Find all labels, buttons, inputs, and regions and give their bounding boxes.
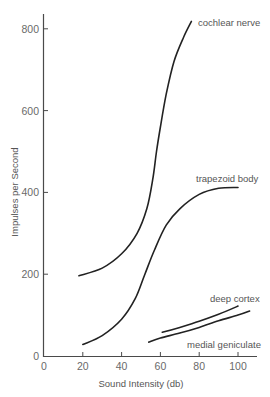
y-tick-label: 0 (33, 350, 39, 362)
x-tick-label: 60 (155, 360, 167, 372)
label-trapezoid-body: trapezoid body (196, 173, 259, 184)
x-axis-label: Sound Intensity (db) (98, 378, 183, 389)
label-cochlear-nerve: cochlear nerve (198, 17, 260, 28)
chart: 0200400600800 020406080100 Sound Intensi… (0, 0, 270, 397)
x-tick-label: 20 (77, 360, 89, 372)
y-tick-label: 400 (21, 186, 39, 198)
medial-geniculate-curve (149, 311, 250, 342)
label-deep-cortex: deep cortex (210, 293, 260, 304)
x-tick-label: 0 (41, 360, 47, 372)
cochlear-nerve-curve (79, 21, 191, 275)
y-axis-label: Impulses per Second (9, 147, 20, 236)
y-tick-label: 200 (21, 268, 39, 280)
x-tick-label: 40 (116, 360, 128, 372)
y-tick-label: 600 (21, 105, 39, 117)
x-ticks: 020406080100 (41, 352, 247, 372)
x-tick-label: 100 (229, 360, 247, 372)
label-medial-geniculate: medial geniculate (187, 339, 261, 350)
x-tick-label: 80 (193, 360, 205, 372)
y-tick-label: 800 (21, 23, 39, 35)
